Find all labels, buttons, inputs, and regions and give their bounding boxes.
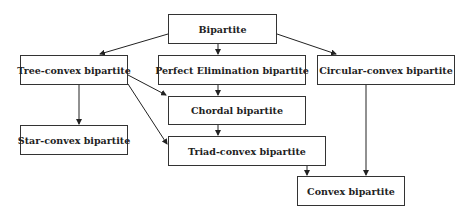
node-bipartite: Bipartite [168, 14, 277, 44]
node-tree-convex-bipartite: Tree-convex bipartite [20, 55, 128, 85]
node-chordal-bipartite: Chordal bipartite [168, 96, 306, 125]
edge-bipartite-tree-convex [100, 34, 168, 54]
node-triad-convex-bipartite: Triad-convex bipartite [168, 136, 326, 166]
node-circular-convex-bipartite: Circular-convex bipartite [317, 55, 455, 85]
node-perfect-elimination-bipartite: Perfect Elimination bipartite [158, 55, 306, 85]
node-convex-bipartite: Convex bipartite [297, 176, 405, 206]
node-star-convex-bipartite: Star-convex bipartite [20, 125, 128, 155]
edge-bipartite-circular-convex [277, 34, 336, 54]
